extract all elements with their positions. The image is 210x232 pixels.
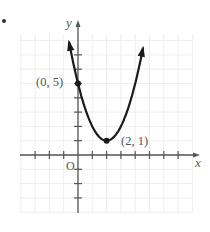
x-axis-label: x [194,155,201,170]
origin-label: O [66,159,75,173]
point-label-2-1: (2, 1) [121,134,148,148]
point-label-0-5: (0, 5) [36,75,63,89]
parabola-graph: x y O (0, 5) (2, 1) [0,0,210,232]
y-axis-label: y [64,15,72,30]
grid [20,34,193,213]
